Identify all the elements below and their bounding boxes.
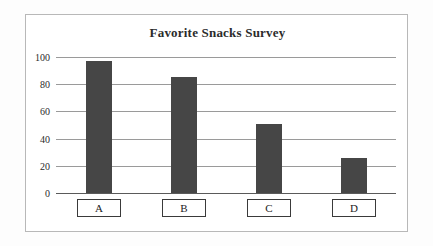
y-axis-tick-label: 80 — [40, 79, 50, 90]
y-axis-tick-label: 60 — [40, 106, 50, 117]
x-axis-line — [56, 193, 396, 194]
category-label-c: C — [247, 199, 291, 217]
category-label-a: A — [77, 199, 121, 217]
chart-screenshot: Favorite Snacks Survey 020406080100 ABCD — [0, 0, 433, 246]
chart-title: Favorite Snacks Survey — [26, 25, 409, 41]
bar — [341, 158, 367, 193]
bar — [171, 77, 197, 193]
y-axis-tick-label: 20 — [40, 160, 50, 171]
y-axis-tick-label: 0 — [45, 188, 50, 199]
y-axis-tick-label: 100 — [35, 52, 50, 63]
y-axis-tick-label: 40 — [40, 133, 50, 144]
category-label-b: B — [162, 199, 206, 217]
category-axis-labels: ABCD — [56, 199, 396, 219]
chart-frame: Favorite Snacks Survey 020406080100 ABCD — [25, 14, 408, 232]
plot-area: 020406080100 — [56, 57, 396, 193]
category-label-d: D — [332, 199, 376, 217]
bar — [86, 61, 112, 193]
bar — [256, 124, 282, 193]
gridline — [56, 57, 396, 58]
